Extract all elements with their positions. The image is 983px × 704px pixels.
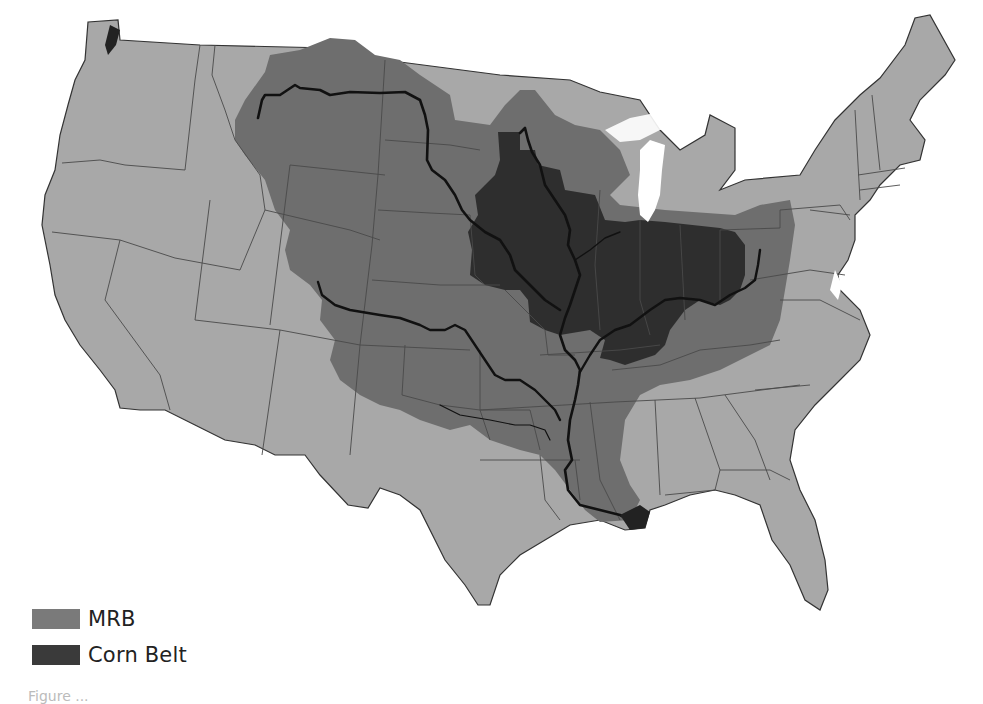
legend-label-mrb: MRB: [88, 607, 136, 631]
legend-swatch-corn-belt: [32, 645, 80, 665]
legend-label-corn-belt: Corn Belt: [88, 643, 187, 667]
figure-caption: Figure ...: [28, 688, 89, 704]
legend-swatch-mrb: [32, 609, 80, 629]
map-legend: MRB Corn Belt: [32, 604, 187, 676]
legend-item-corn-belt: Corn Belt: [32, 640, 187, 670]
legend-item-mrb: MRB: [32, 604, 187, 634]
